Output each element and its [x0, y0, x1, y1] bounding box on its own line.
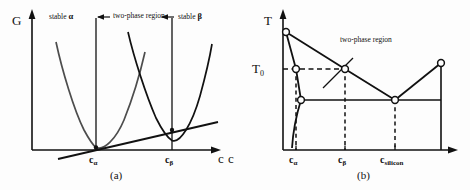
figure-container: G c stable α two-phase region stable β c… — [0, 0, 470, 190]
tick-label-c-silicon: csilicon — [380, 155, 404, 165]
t0-base: T — [252, 61, 260, 76]
marker-eutectic-point — [392, 97, 399, 104]
alpha-symbol: α — [68, 11, 73, 21]
tick-label-c-beta-b: cβ — [338, 155, 346, 165]
stable-alpha-text: stable — [49, 12, 67, 21]
tick-sub-c-alpha-a: α — [93, 159, 97, 167]
panel-a-free-energy-diagram: G c stable α two-phase region stable β c… — [0, 0, 235, 190]
tick-label-c-beta-a: cβ — [165, 155, 173, 165]
tick-label-c-alpha-b: cα — [289, 155, 297, 165]
stable-beta-text: stable — [178, 12, 196, 21]
two-phase-left-arrow-icon — [97, 14, 110, 20]
tick-sub-c-beta-b: β — [342, 159, 346, 167]
tangency-point-alpha — [94, 145, 98, 149]
panel-b-y-axis-label: T — [264, 14, 272, 27]
panel-a-caption: (a) — [110, 170, 122, 181]
two-phase-leader-line — [323, 58, 353, 88]
beta-symbol: β — [197, 11, 201, 21]
t0-axis-label: T0 — [252, 62, 264, 75]
c-axis-horizontal-b — [283, 147, 458, 154]
g-alpha-curve — [56, 42, 145, 148]
tick-label-c-alpha-a: cα — [89, 155, 97, 165]
panel-b-x-axis-label: c — [228, 152, 234, 165]
g-beta-curve — [128, 32, 212, 141]
c-axis-horizontal — [32, 147, 221, 154]
marker-solidus-t0 — [293, 66, 300, 73]
tangency-point-beta — [170, 128, 174, 132]
two-phase-region-label-a: two-phase region — [113, 12, 165, 20]
panel-a-x-axis-label: c — [218, 152, 224, 165]
panel-a-y-axis-label: G — [12, 14, 21, 27]
panel-a-svg — [0, 0, 235, 190]
marker-liquidus-t0 — [342, 66, 349, 73]
marker-melting-point — [283, 29, 290, 36]
panel-b-phase-diagram: T c T0 two-phase region cα cβ csilicon (… — [235, 0, 470, 190]
panel-b-caption: (b) — [357, 170, 370, 181]
g-axis-vertical — [29, 9, 36, 150]
tick-sub-c-silicon: silicon — [384, 159, 403, 167]
panel-b-svg — [235, 0, 470, 190]
marker-silicon-melting-point — [438, 60, 445, 67]
marker-alpha-solvus — [298, 97, 305, 104]
tick-sub-c-beta-a: β — [169, 159, 173, 167]
stable-beta-region-label: stable β — [178, 12, 202, 21]
tick-sub-c-alpha-b: α — [293, 159, 297, 167]
stable-alpha-region-label: stable α — [49, 12, 73, 21]
two-phase-region-label-b: two-phase region — [340, 36, 392, 44]
liquidus-right-line — [395, 63, 441, 100]
t0-sub: 0 — [260, 69, 264, 78]
